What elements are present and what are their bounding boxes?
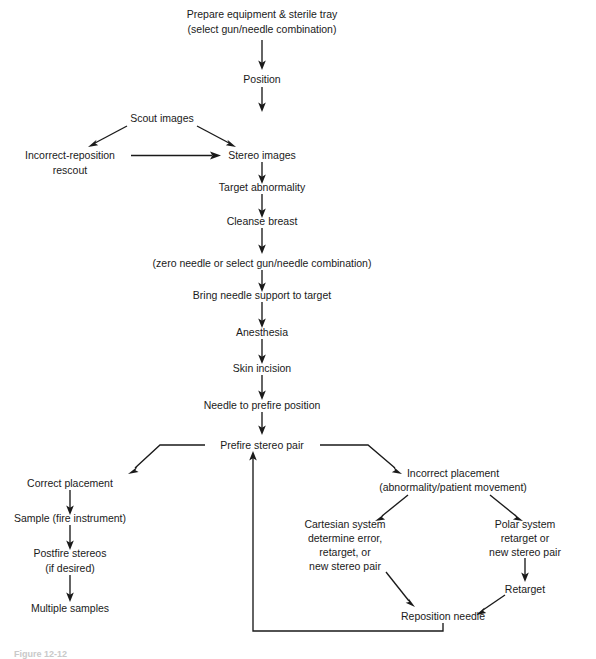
node-cartesian-line3: retarget, or xyxy=(319,546,371,558)
node-anesthesia: Anesthesia xyxy=(236,326,288,338)
edge-skin-incision-to-needle-prefire xyxy=(258,375,266,400)
node-cleanse-breast: Cleanse breast xyxy=(227,215,298,227)
edge-prefire-to-incorrect-placement xyxy=(320,445,402,474)
edge-cleanse-to-zero-needle xyxy=(258,228,266,254)
edge-polar-to-retarget xyxy=(521,558,529,582)
node-incorrect-reposition-line2: rescout xyxy=(53,164,88,176)
edge-anesthesia-to-skin-incision xyxy=(258,339,266,364)
node-target-abnormality: Target abnormality xyxy=(219,181,306,193)
edge-bring-support-to-anesthesia xyxy=(258,302,266,328)
node-polar-line2: retarget or xyxy=(501,532,550,544)
node-multiple-samples: Multiple samples xyxy=(31,602,109,614)
node-scout-images: Scout images xyxy=(130,112,194,124)
edge-prefire-to-correct-placement xyxy=(128,445,205,474)
node-skin-incision: Skin incision xyxy=(233,362,292,374)
node-polar-line1: Polar system xyxy=(495,518,556,530)
node-incorrect-placement-line1: Incorrect placement xyxy=(407,467,499,479)
node-postfire-stereos-line1: Postfire stereos xyxy=(34,547,107,559)
edge-postfire-stereos-to-multiple-samples xyxy=(66,575,74,602)
figure-caption: Figure 12-12 xyxy=(14,649,67,659)
edge-scout-to-incorrect-reposition xyxy=(88,126,127,147)
node-zero-needle: (zero needle or select gun/needle combin… xyxy=(153,257,372,269)
node-cartesian-line1: Cartesian system xyxy=(304,518,385,530)
node-prefire-stereo-pair: Prefire stereo pair xyxy=(220,439,304,451)
edge-scout-to-stereo xyxy=(197,126,236,147)
edge-cartesian-to-reposition-needle xyxy=(386,572,415,607)
node-polar-line3: new stereo pair xyxy=(489,546,561,558)
node-incorrect-reposition-line1: Incorrect-reposition xyxy=(25,149,115,161)
node-prepare-equipment-line2: (select gun/needle combination) xyxy=(188,23,337,35)
node-correct-placement: Correct placement xyxy=(27,477,113,489)
edge-position-to-scout xyxy=(258,87,266,112)
node-sample-fire-instrument: Sample (fire instrument) xyxy=(14,512,126,524)
node-retarget: Retarget xyxy=(505,583,545,595)
node-stereo-images: Stereo images xyxy=(228,149,296,161)
node-incorrect-placement-line2: (abnormality/patient movement) xyxy=(379,481,527,493)
flowchart-diagram: Prepare equipment & sterile tray (select… xyxy=(0,0,596,659)
node-cartesian-line2: determine error, xyxy=(308,532,382,544)
flowchart-canvas: Prepare equipment & sterile tray (select… xyxy=(0,0,596,659)
node-reposition-needle: Reposition needle xyxy=(401,610,485,622)
edge-needle-prefire-to-prefire-stereo xyxy=(258,412,266,435)
edge-prepare-to-position xyxy=(258,40,266,70)
node-needle-to-prefire: Needle to prefire position xyxy=(204,399,321,411)
edge-incorrect-reposition-to-stereo xyxy=(131,151,221,159)
node-cartesian-line4: new stereo pair xyxy=(309,560,381,572)
node-bring-needle-support: Bring needle support to target xyxy=(193,289,331,301)
node-prepare-equipment-line1: Prepare equipment & sterile tray xyxy=(187,8,338,20)
node-postfire-stereos-line2: (if desired) xyxy=(45,562,95,574)
node-position: Position xyxy=(243,73,281,85)
